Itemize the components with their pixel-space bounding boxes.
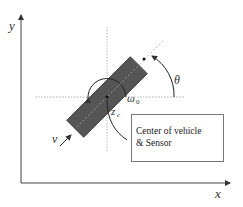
omega-label: ω: [127, 92, 135, 104]
callout-line-1: Center of vehicle: [136, 125, 223, 137]
velocity-label: v: [52, 132, 58, 146]
callout-line-2: & Sensor: [136, 137, 223, 149]
velocity-arrow: [60, 135, 71, 146]
theta-label: θ: [174, 73, 180, 87]
center-point: [105, 95, 108, 98]
theta-angle-arc: [152, 56, 174, 97]
vehicle-kinematics-diagram: y x θ ω 0 z c v: [0, 0, 243, 207]
z-label: z: [110, 105, 116, 117]
front-point: [143, 58, 146, 61]
z-subscript: c: [117, 111, 121, 119]
omega-subscript: 0: [136, 98, 140, 106]
y-axis-label: y: [7, 18, 15, 33]
x-axis-label: x: [214, 186, 221, 201]
callout-box: Center of vehicle & Sensor: [131, 114, 224, 162]
